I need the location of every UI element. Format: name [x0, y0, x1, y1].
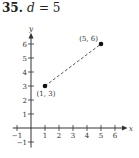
coordinate-plot: xy−1123456−1123456(1, 3)(5, 6) — [0, 0, 139, 158]
y-tick-label: 1 — [23, 111, 27, 119]
x-tick-label: 4 — [85, 132, 90, 140]
x-axis-label: x — [129, 125, 133, 133]
x-tick-label: 3 — [71, 132, 75, 140]
y-axis-arrow-icon — [29, 33, 34, 39]
data-point — [43, 84, 48, 89]
y-tick-label: 2 — [23, 97, 27, 105]
y-tick-label: 4 — [23, 69, 28, 77]
x-axis-arrow-icon — [122, 126, 128, 131]
x-tick-label: 5 — [99, 132, 103, 140]
point-label: (1, 3) — [37, 90, 56, 98]
y-tick-label: −1 — [17, 139, 27, 147]
distance-segment — [45, 44, 101, 86]
data-point — [99, 42, 104, 47]
y-tick-label: 6 — [23, 41, 28, 49]
y-tick-label: 5 — [23, 55, 27, 63]
x-tick-label: 1 — [43, 132, 47, 140]
x-tick-label: 6 — [113, 132, 118, 140]
x-tick-label: 2 — [57, 132, 61, 140]
y-tick-label: 3 — [23, 83, 27, 91]
point-label: (5, 6) — [79, 35, 98, 43]
y-axis-label: y — [28, 25, 34, 33]
